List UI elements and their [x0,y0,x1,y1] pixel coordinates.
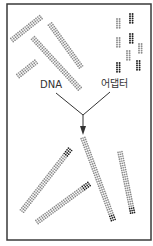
adapters-group [116,13,143,73]
adapter-block-light [126,50,131,61]
ligated-products-group [20,136,136,224]
dna-fragment [16,59,38,78]
adapter-block-dark [116,62,121,73]
dna-connector-line [56,93,83,115]
dna-label: DNA [40,80,62,90]
adapter-block-light [116,37,121,48]
ligated-product [117,151,135,214]
adapter-block-light [138,43,143,54]
ligated-product [80,136,116,221]
adapter-block-dark [129,33,134,44]
ligated-product [20,147,73,213]
adapter-connector-line [83,92,110,115]
adapter-block-dark [129,13,134,24]
ligated-product [35,182,91,225]
adapter-label: 어댑터 [101,79,128,89]
dna-fragment [48,22,84,69]
adapter-block-dark [136,60,141,71]
diagram-canvas [0,0,153,246]
adapter-block-light [116,18,121,29]
arrow-down-icon [80,126,86,135]
ligation-connector [56,92,110,135]
dna-fragment [10,15,43,43]
